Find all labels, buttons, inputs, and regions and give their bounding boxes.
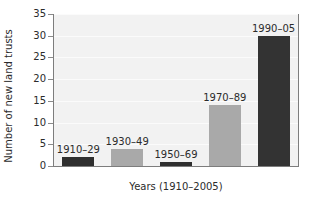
y-tick-label: 25	[20, 52, 46, 62]
x-axis-line	[53, 166, 299, 167]
plot-right-border	[298, 14, 299, 167]
y-tick-label: 35	[20, 9, 46, 19]
bar-1910–29	[62, 157, 94, 166]
y-axis-title: Number of new land trusts	[2, 6, 16, 186]
bar-label-1950–69: 1950–69	[150, 149, 202, 160]
x-axis-title: Years (1910–2005)	[54, 181, 298, 193]
bar-label-1930–49: 1930–49	[101, 136, 153, 147]
bars-group	[54, 14, 298, 166]
y-tick-label: 5	[20, 139, 46, 149]
bar-label-1970–89: 1970–89	[199, 92, 251, 103]
y-tick-label: 0	[20, 161, 46, 171]
y-axis-tick-labels: 05101520253035	[20, 14, 46, 166]
bar-1930–49	[111, 149, 143, 166]
bar-label-1990–05: 1990–05	[248, 23, 300, 34]
bar-1990–05	[258, 36, 290, 166]
y-tick-label: 10	[20, 118, 46, 128]
bar-1970–89	[209, 105, 241, 166]
y-tick-label: 20	[20, 74, 46, 84]
y-tick-label: 15	[20, 96, 46, 106]
y-tick-label: 30	[20, 31, 46, 41]
plot-area	[54, 14, 298, 166]
bar-label-1910–29: 1910–29	[52, 144, 104, 155]
bar-chart-figure: Number of new land trusts 05101520253035…	[0, 0, 316, 211]
